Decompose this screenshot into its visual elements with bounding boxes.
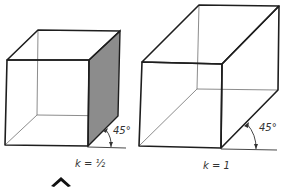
angle-baseline bbox=[88, 147, 126, 148]
cube-k-half: 45° k = ½ bbox=[5, 30, 131, 169]
oblique-projection-diagram: 45° k = ½ 45° k = 1 bbox=[0, 0, 292, 187]
figure-label: k = 1 bbox=[203, 160, 230, 171]
chevron-up-icon bbox=[51, 177, 71, 187]
angle-baseline bbox=[221, 149, 277, 150]
arc-arrowhead-icon bbox=[109, 142, 113, 147]
angle-label: 45° bbox=[113, 125, 131, 136]
hidden-edges bbox=[139, 5, 278, 146]
box-k-one: 45° k = 1 bbox=[139, 5, 279, 171]
figure-label: k = ½ bbox=[75, 158, 106, 169]
arc-arrowhead-icon bbox=[254, 144, 258, 149]
top-face bbox=[142, 5, 279, 64]
angle-label: 45° bbox=[259, 122, 277, 133]
